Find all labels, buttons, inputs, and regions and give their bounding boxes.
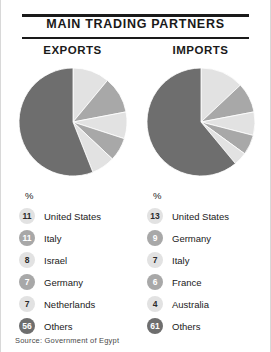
pie-svg-exports bbox=[18, 67, 128, 177]
legend-row: 61Others bbox=[147, 315, 263, 337]
legend-value-swatch: 13 bbox=[147, 208, 163, 224]
page-title: MAIN TRADING PARTNERS bbox=[1, 17, 270, 31]
unit-label-exports: % bbox=[25, 190, 135, 201]
legend-row: 6France bbox=[147, 271, 263, 293]
legend-label: Others bbox=[44, 321, 73, 332]
legend-row: 9Germany bbox=[147, 227, 263, 249]
legend-value-swatch: 7 bbox=[19, 296, 35, 312]
legend-label: France bbox=[172, 277, 202, 288]
legend-value-swatch: 11 bbox=[19, 230, 35, 246]
panel-heading-imports: IMPORTS bbox=[138, 44, 263, 60]
legend-row: 13United States bbox=[147, 205, 263, 227]
legend-value-swatch: 56 bbox=[19, 318, 35, 334]
legend-label: Italy bbox=[44, 233, 61, 244]
legend-row: 8Israel bbox=[19, 249, 135, 271]
legend-row: 11United States bbox=[19, 205, 135, 227]
panel-imports: IMPORTS % 13United States9Germany7Italy6… bbox=[138, 44, 263, 337]
legend-value-swatch: 6 bbox=[147, 274, 163, 290]
title-rule-bottom bbox=[22, 37, 249, 39]
legend-value-swatch: 11 bbox=[19, 208, 35, 224]
legend-label: Italy bbox=[172, 255, 189, 266]
legend-row: 4Australia bbox=[147, 293, 263, 315]
legend-label: United States bbox=[172, 211, 229, 222]
legend-label: Netherlands bbox=[44, 299, 95, 310]
legend-value-swatch: 7 bbox=[147, 252, 163, 268]
pie-chart-imports bbox=[146, 67, 256, 177]
legend-value-swatch: 61 bbox=[147, 318, 163, 334]
legend-label: Australia bbox=[172, 299, 209, 310]
chart-card: MAIN TRADING PARTNERS EXPORTS % 11United… bbox=[0, 0, 271, 352]
legend-label: Germany bbox=[172, 233, 211, 244]
legend-exports: 11United States11Italy8Israel7Germany7Ne… bbox=[10, 205, 135, 337]
legend-label: Germany bbox=[44, 277, 83, 288]
legend-value-swatch: 9 bbox=[147, 230, 163, 246]
legend-row: 7Germany bbox=[19, 271, 135, 293]
legend-value-swatch: 7 bbox=[19, 274, 35, 290]
legend-label: United States bbox=[44, 211, 101, 222]
panel-heading-exports: EXPORTS bbox=[10, 44, 135, 60]
legend-imports: 13United States9Germany7Italy6France4Aus… bbox=[138, 205, 263, 337]
legend-row: 7Netherlands bbox=[19, 293, 135, 315]
pie-chart-exports bbox=[18, 67, 128, 177]
legend-label: Others bbox=[172, 321, 201, 332]
legend-row: 56Others bbox=[19, 315, 135, 337]
legend-value-swatch: 4 bbox=[147, 296, 163, 312]
source-note: Source: Government of Egypt bbox=[15, 336, 119, 345]
legend-row: 11Italy bbox=[19, 227, 135, 249]
pie-svg-imports bbox=[146, 67, 256, 177]
legend-label: Israel bbox=[44, 255, 67, 266]
legend-row: 7Italy bbox=[147, 249, 263, 271]
unit-label-imports: % bbox=[153, 190, 263, 201]
panel-exports: EXPORTS % 11United States11Italy8Israel7… bbox=[10, 44, 135, 337]
legend-value-swatch: 8 bbox=[19, 252, 35, 268]
